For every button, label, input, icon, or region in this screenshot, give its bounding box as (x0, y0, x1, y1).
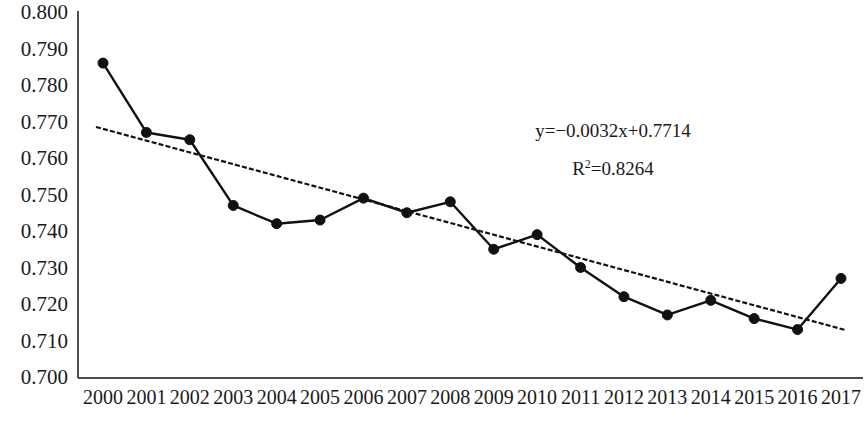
x-axis-tick-label: 2016 (778, 386, 818, 408)
data-point-marker (272, 219, 282, 229)
line-chart-canvas: 0.8000.7900.7800.7700.7600.7500.7400.730… (0, 0, 865, 424)
x-axis-tick-label: 2013 (647, 386, 687, 408)
data-point-marker (141, 127, 151, 137)
x-axis-tick-label: 2005 (300, 386, 340, 408)
plot-axes (78, 11, 863, 378)
y-axis-tick-label: 0.780 (21, 73, 68, 97)
x-axis-tick-labels: 2000200120022003200420052006200720082009… (83, 386, 861, 408)
y-axis-tick-label: 0.740 (21, 219, 68, 243)
data-point-marker (445, 197, 455, 207)
x-axis-tick-label: 2009 (474, 386, 514, 408)
x-axis-tick-label: 2014 (691, 386, 731, 408)
y-axis-tick-label: 0.800 (21, 0, 68, 24)
data-point-marker (228, 200, 238, 210)
data-point-marker (315, 215, 325, 225)
data-point-marker (793, 325, 803, 335)
y-axis-tick-label: 0.710 (21, 329, 68, 353)
y-axis-tick-label: 0.790 (21, 37, 68, 61)
data-point-markers (98, 58, 846, 334)
y-axis-tick-label: 0.770 (21, 110, 68, 134)
data-point-marker (98, 58, 108, 68)
data-point-marker (662, 310, 672, 320)
data-point-marker (185, 135, 195, 145)
y-axis-tick-label: 0.760 (21, 146, 68, 170)
data-point-marker (576, 263, 586, 273)
data-point-marker (836, 273, 846, 283)
x-axis-tick-label: 2008 (430, 386, 470, 408)
x-axis-tick-label: 2006 (343, 386, 383, 408)
data-point-marker (619, 292, 629, 302)
y-axis-tick-label: 0.730 (21, 256, 68, 280)
x-axis-tick-label: 2015 (734, 386, 774, 408)
data-point-marker (532, 230, 542, 240)
data-series-line (103, 63, 841, 329)
x-axis-tick-label: 2012 (604, 386, 644, 408)
chart-figure: 0.8000.7900.7800.7700.7600.7500.7400.730… (0, 0, 865, 424)
regression-equation-label: y=−0.0032x+0.7714 (535, 120, 691, 141)
r-squared-base: R (572, 158, 585, 179)
x-axis-tick-label: 2001 (126, 386, 166, 408)
y-axis-tick-labels: 0.8000.7900.7800.7700.7600.7500.7400.730… (21, 0, 68, 389)
x-axis-tick-label: 2002 (170, 386, 210, 408)
trendline-path (96, 127, 845, 330)
y-axis-tick-label: 0.700 (21, 365, 68, 389)
data-point-marker (402, 208, 412, 218)
x-axis-tick-label: 2000 (83, 386, 123, 408)
x-axis-tick-label: 2003 (213, 386, 253, 408)
x-axis-tick-label: 2017 (821, 386, 861, 408)
y-axis-tick-label: 0.750 (21, 183, 68, 207)
r-squared-value: =0.8264 (591, 158, 654, 179)
data-point-marker (749, 314, 759, 324)
x-axis-tick-label: 2010 (517, 386, 557, 408)
y-axis-tick-label: 0.720 (21, 292, 68, 316)
x-axis-tick-label: 2004 (257, 386, 297, 408)
data-point-marker (706, 295, 716, 305)
x-axis-tick-label: 2007 (387, 386, 427, 408)
data-point-marker (358, 193, 368, 203)
r-squared-label: R2=0.8264 (572, 157, 654, 179)
x-axis-tick-label: 2011 (561, 386, 600, 408)
data-point-marker (489, 244, 499, 254)
